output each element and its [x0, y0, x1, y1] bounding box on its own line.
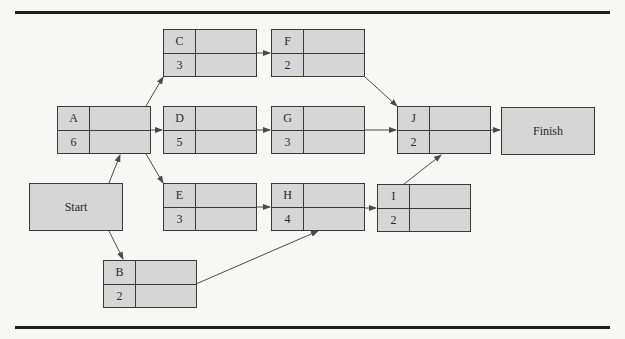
activity-duration: 4	[272, 208, 304, 231]
activity-id: E	[164, 184, 196, 208]
activity-duration: 5	[164, 131, 196, 154]
start-label: Start	[65, 200, 88, 215]
activity-cell-empty-bottom	[196, 54, 256, 77]
activity-node-d: D 5	[163, 106, 257, 154]
edge-start-a	[109, 155, 120, 183]
activity-node-e: E 3	[163, 183, 257, 231]
activity-duration: 6	[58, 131, 90, 154]
activity-duration: 2	[272, 54, 304, 77]
activity-node-a: A 6	[57, 106, 151, 154]
activity-id: D	[164, 107, 196, 131]
activity-id: B	[104, 261, 136, 285]
activity-node-c: C 3	[163, 29, 257, 77]
activity-node-i: I 2	[377, 184, 471, 232]
activity-node-g: G 3	[271, 106, 365, 154]
activity-cell-empty-top	[304, 107, 364, 131]
activity-duration: 2	[378, 209, 410, 232]
activity-node-b: B 2	[103, 260, 197, 308]
activity-duration: 3	[164, 208, 196, 231]
activity-node-f: F 2	[271, 29, 365, 77]
activity-id: I	[378, 185, 410, 209]
activity-id: F	[272, 30, 304, 54]
activity-cell-empty-bottom	[196, 131, 256, 154]
activity-node-j: J 2	[397, 106, 491, 154]
activity-cell-empty-bottom	[304, 208, 364, 231]
activity-cell-empty-bottom	[196, 208, 256, 231]
activity-cell-empty-top	[196, 184, 256, 208]
activity-cell-empty-top	[410, 185, 470, 209]
activity-id: C	[164, 30, 196, 54]
activity-cell-empty-bottom	[136, 285, 196, 308]
edge-a-c	[146, 77, 163, 106]
start-node: Start	[29, 183, 123, 231]
activity-node-h: H 4	[271, 183, 365, 231]
activity-duration: 3	[164, 54, 196, 77]
activity-cell-empty-bottom	[430, 131, 490, 154]
activity-id: H	[272, 184, 304, 208]
activity-cell-empty-bottom	[304, 131, 364, 154]
activity-id: J	[398, 107, 430, 131]
edge-a-e	[146, 154, 163, 183]
activity-cell-empty-bottom	[304, 54, 364, 77]
activity-duration: 2	[398, 131, 430, 154]
activity-cell-empty-bottom	[90, 131, 150, 154]
activity-cell-empty-top	[304, 30, 364, 54]
finish-label: Finish	[533, 124, 563, 139]
finish-node: Finish	[501, 107, 595, 155]
edge-f-j	[365, 77, 397, 106]
activity-id: G	[272, 107, 304, 131]
edge-start-b	[109, 231, 123, 259]
activity-cell-empty-top	[90, 107, 150, 131]
activity-id: A	[58, 107, 90, 131]
activity-cell-empty-bottom	[410, 209, 470, 232]
activity-cell-empty-top	[430, 107, 490, 131]
activity-duration: 2	[104, 285, 136, 308]
activity-cell-empty-top	[196, 107, 256, 131]
edge-b-h	[196, 231, 318, 284]
activity-cell-empty-top	[196, 30, 256, 54]
edge-i-j	[404, 155, 441, 184]
activity-cell-empty-top	[136, 261, 196, 285]
activity-cell-empty-top	[304, 184, 364, 208]
activity-duration: 3	[272, 131, 304, 154]
